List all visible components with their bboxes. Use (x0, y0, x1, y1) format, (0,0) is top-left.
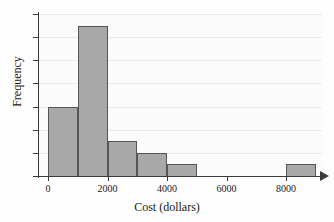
x-axis-tick (167, 176, 168, 181)
histogram-bar (137, 153, 167, 176)
histogram-bar (48, 107, 78, 176)
y-axis-tick (33, 37, 38, 38)
y-axis-tick (33, 130, 38, 131)
histogram-bar (78, 26, 108, 176)
x-axis-tick-label: 6000 (205, 184, 249, 194)
gridline (38, 14, 322, 15)
x-axis-tick-label: 8000 (264, 184, 308, 194)
y-axis-tick (33, 14, 38, 15)
x-axis-tick (227, 176, 228, 181)
x-axis-line (38, 176, 321, 177)
y-axis-tick (33, 176, 38, 177)
y-axis-line (38, 12, 39, 178)
histogram-bar (108, 141, 138, 176)
y-axis-tick (33, 60, 38, 61)
y-axis-tick (33, 83, 38, 84)
x-axis-tick-label: 0 (26, 184, 70, 194)
histogram-figure: 02468101214 02000400060008000 Cost (doll… (0, 0, 334, 222)
x-axis-title: Cost (dollars) (0, 200, 334, 215)
x-axis-arrow-icon (320, 171, 329, 181)
x-axis-tick (48, 176, 49, 181)
x-axis-tick (108, 176, 109, 181)
x-axis-tick (286, 176, 287, 181)
histogram-bar (286, 164, 316, 176)
y-axis-tick (33, 107, 38, 108)
histogram-bar (167, 164, 197, 176)
y-axis-tick (33, 153, 38, 154)
x-axis-tick-label: 2000 (86, 184, 130, 194)
x-axis-tick-label: 4000 (145, 184, 189, 194)
y-axis-title: Frequency (10, 32, 25, 132)
